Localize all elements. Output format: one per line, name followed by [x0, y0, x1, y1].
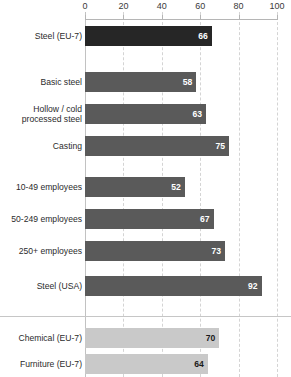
bar-value-label: 67	[200, 214, 210, 224]
bar-category-label: Steel (EU-7)	[0, 31, 82, 41]
bar-chart: 020406080100 Steel (EU-7)66Basic steel58…	[0, 0, 291, 377]
bar-category-label: Hollow / cold processed steel	[0, 104, 82, 124]
bar: 73	[85, 241, 225, 261]
x-tick-mark-80	[239, 15, 240, 20]
bar: 70	[85, 328, 219, 348]
bar-row: 10-49 employees52	[0, 177, 291, 197]
bar: 67	[85, 209, 214, 229]
bar-category-label: Casting	[0, 141, 82, 151]
x-tick-label-80: 80	[234, 1, 244, 12]
x-tick-mark-40	[162, 15, 163, 20]
bar-value-label: 75	[215, 141, 225, 151]
x-tick-label-60: 60	[195, 1, 205, 12]
bar-category-label: Chemical (EU-7)	[0, 333, 82, 343]
bar-row: Steel (USA)92	[0, 276, 291, 296]
bar-category-label: Steel (USA)	[0, 281, 82, 291]
bar-row: 50-249 employees67	[0, 209, 291, 229]
bar-row: Casting75	[0, 136, 291, 156]
bar-value-label: 63	[192, 109, 202, 119]
bar-value-label: 70	[206, 333, 216, 343]
bar: 63	[85, 104, 206, 124]
group-separator-line	[0, 316, 291, 317]
bar-category-label: 250+ employees	[0, 246, 82, 256]
bar-category-label: Furniture (EU-7)	[0, 359, 82, 369]
x-tick-mark-20	[123, 15, 124, 20]
bar-row: Furniture (EU-7)64	[0, 354, 291, 374]
bar-row: Steel (EU-7)66	[0, 26, 291, 46]
x-tick-mark-0	[85, 15, 86, 20]
bar-category-label: 10-49 employees	[0, 182, 82, 192]
bar-value-label: 66	[198, 31, 208, 41]
bar-value-label: 58	[183, 77, 193, 87]
bar-value-label: 64	[194, 359, 204, 369]
bar-value-label: 92	[248, 281, 258, 291]
bar: 58	[85, 72, 196, 92]
x-tick-mark-100	[277, 15, 278, 20]
bar: 64	[85, 354, 208, 374]
bar-value-label: 73	[212, 246, 222, 256]
bar: 52	[85, 177, 185, 197]
x-tick-mark-60	[200, 15, 201, 20]
bar-row: Chemical (EU-7)70	[0, 328, 291, 348]
bar-row: Basic steel58	[0, 72, 291, 92]
bar-category-label: Basic steel	[0, 77, 82, 87]
bar-category-label: 50-249 employees	[0, 214, 82, 224]
bar-value-label: 52	[171, 182, 181, 192]
bar-row: Hollow / cold processed steel63	[0, 104, 291, 124]
bar-row: 250+ employees73	[0, 241, 291, 261]
bar: 92	[85, 276, 262, 296]
x-tick-label-20: 20	[118, 1, 128, 12]
bar: 75	[85, 136, 229, 156]
x-tick-label-100: 100	[269, 1, 284, 12]
bar: 66	[85, 26, 212, 46]
x-tick-label-0: 0	[82, 1, 87, 12]
x-tick-label-40: 40	[157, 1, 167, 12]
